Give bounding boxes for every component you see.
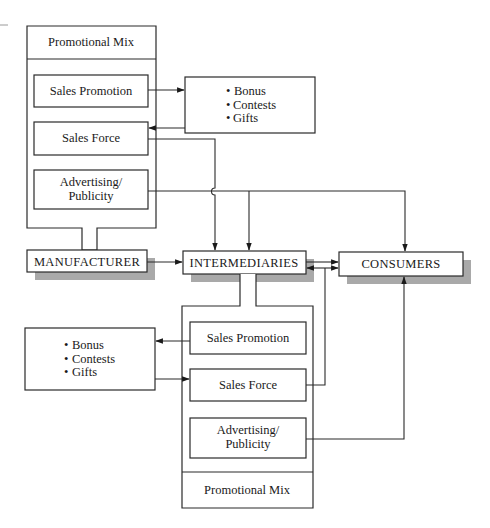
svg-text:•: •	[64, 338, 68, 352]
svg-text:Sales Force: Sales Force	[62, 131, 120, 145]
svg-text:Sales Promotion: Sales Promotion	[207, 331, 290, 345]
manufacturer-node: MANUFACTURER	[27, 250, 155, 280]
svg-text:Publicity: Publicity	[225, 437, 271, 451]
svg-text:•: •	[226, 98, 230, 112]
bottom-promotional-mix: Promotional Mix Sales Promotion Sales Fo…	[182, 274, 313, 508]
bottom-sales-force-box: Sales Force	[190, 369, 306, 401]
top-mix-title: Promotional Mix	[48, 35, 135, 49]
top-incentives-box: • Bonus • Contests • Gifts	[185, 77, 315, 133]
svg-text:•: •	[64, 352, 68, 366]
svg-text:•: •	[226, 111, 230, 125]
bottom-advertising-publicity-box: Advertising/ Publicity	[190, 418, 306, 458]
bottom-sales-promotion-box: Sales Promotion	[190, 322, 306, 354]
svg-text:Gifts: Gifts	[233, 111, 258, 125]
bottom-mix-title: Promotional Mix	[204, 483, 291, 497]
top-promotional-mix: Promotional Mix Sales Promotion Sales Fo…	[27, 26, 156, 250]
svg-text:Advertising/: Advertising/	[217, 423, 280, 437]
svg-text:Bonus: Bonus	[72, 338, 104, 352]
promotional-flow-diagram: Promotional Mix Sales Promotion Sales Fo…	[0, 0, 490, 528]
svg-text:Publicity: Publicity	[68, 189, 114, 203]
svg-text:Advertising/: Advertising/	[60, 175, 123, 189]
svg-text:Contests: Contests	[233, 98, 276, 112]
svg-text:CONSUMERS: CONSUMERS	[361, 257, 440, 271]
svg-text:Gifts: Gifts	[72, 365, 97, 379]
svg-text:•: •	[64, 365, 68, 379]
top-sales-promotion-box: Sales Promotion	[34, 75, 148, 107]
arrow-sales-force-to-intermediaries	[148, 139, 215, 250]
svg-text:Sales Promotion: Sales Promotion	[50, 84, 133, 98]
arrow-bottom-advertising-to-consumers	[306, 277, 404, 439]
svg-text:Sales Force: Sales Force	[219, 378, 277, 392]
svg-text:Contests: Contests	[72, 352, 115, 366]
top-advertising-publicity-box: Advertising/ Publicity	[34, 170, 148, 209]
top-sales-force-box: Sales Force	[34, 122, 148, 155]
consumers-node: CONSUMERS	[339, 252, 471, 284]
svg-text:Bonus: Bonus	[234, 84, 266, 98]
arrow-advertising-to-consumers	[148, 191, 405, 251]
bullet-dot: •	[226, 84, 230, 98]
svg-text:MANUFACTURER: MANUFACTURER	[34, 255, 141, 269]
bottom-incentives-box: • Bonus • Contests • Gifts	[25, 328, 155, 390]
svg-text:INTERMEDIARIES: INTERMEDIARIES	[189, 256, 298, 270]
